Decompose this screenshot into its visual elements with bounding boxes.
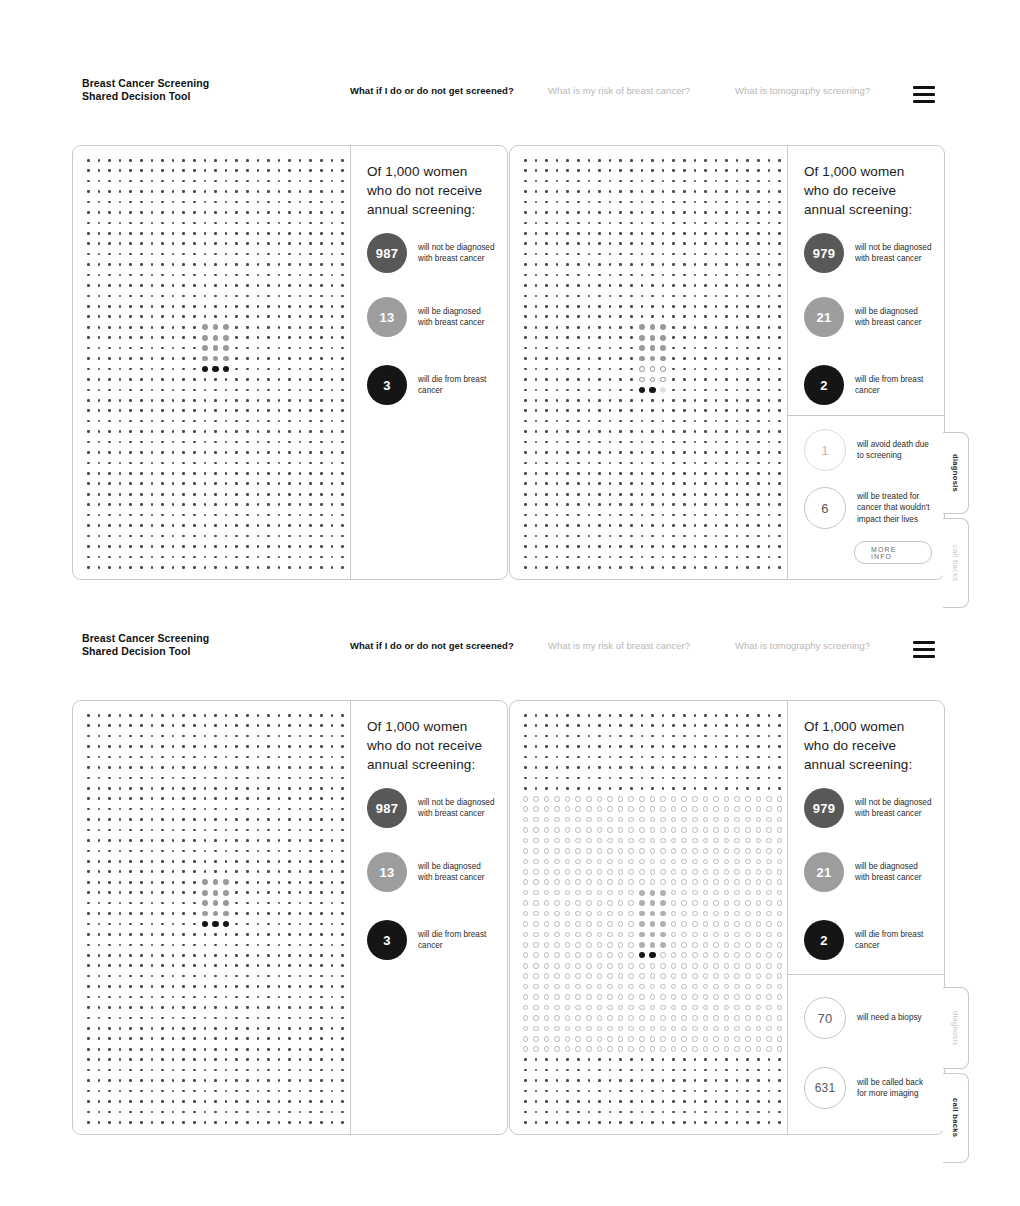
person-dot	[598, 766, 601, 769]
person-dot	[119, 222, 122, 225]
icon-array-cell	[200, 186, 211, 196]
icon-array-cell	[626, 1013, 637, 1023]
icon-array-cell	[157, 961, 168, 971]
icon-array-cell	[594, 877, 605, 887]
icon-array-row	[520, 343, 787, 353]
icon-array-cell	[552, 228, 563, 238]
nav-item-tomography[interactable]: What is tomography screening?	[735, 640, 870, 651]
icon-array-cell	[700, 447, 711, 457]
person-dot	[618, 827, 624, 833]
more-info-button[interactable]: MORE INFO	[854, 541, 932, 564]
icon-array-row	[520, 520, 787, 530]
nav-item-risk[interactable]: What is my risk of breast cancer?	[548, 640, 690, 651]
person-dot	[235, 766, 238, 769]
person-dot	[757, 430, 760, 433]
icon-array-cell	[584, 919, 595, 929]
person-dot	[545, 766, 548, 769]
person-dot	[119, 975, 122, 978]
person-dot	[660, 911, 666, 917]
icon-array-cell	[136, 1096, 147, 1106]
vertical-tab-diagnosis[interactable]: diagnosis	[943, 987, 969, 1069]
nav-item-screened[interactable]: What if I do or do not get screened?	[350, 640, 514, 651]
hamburger-menu-icon[interactable]	[913, 86, 935, 103]
icon-array-cell	[690, 291, 701, 301]
person-dot	[713, 911, 719, 917]
person-dot	[320, 274, 323, 277]
icon-array-cell	[83, 176, 94, 186]
icon-array-cell	[615, 301, 626, 311]
nav-item-screened[interactable]: What if I do or do not get screened?	[350, 85, 514, 96]
person-dot	[639, 848, 645, 854]
icon-array-cell	[200, 1023, 211, 1033]
person-dot	[267, 996, 270, 999]
hamburger-menu-icon[interactable]	[913, 641, 935, 658]
person-dot	[341, 964, 344, 967]
icon-array-cell	[147, 479, 158, 489]
icon-array-cell	[605, 259, 616, 269]
person-dot	[630, 1100, 633, 1103]
icon-array-cell	[94, 416, 105, 426]
person-dot	[778, 336, 781, 339]
person-dot	[598, 1100, 601, 1103]
icon-array-cell	[679, 489, 690, 499]
person-dot	[524, 253, 527, 256]
icon-array-cell	[573, 510, 584, 520]
nav-item-risk[interactable]: What is my risk of breast cancer?	[548, 85, 690, 96]
icon-array-cell	[210, 447, 221, 457]
icon-array-cell	[200, 364, 211, 374]
icon-array-cell	[337, 783, 348, 793]
person-dot	[650, 869, 656, 875]
person-dot	[278, 472, 281, 475]
stat-list: 987 will not be diagnosed with breast ca…	[367, 233, 495, 405]
icon-array-cell	[253, 1065, 264, 1075]
icon-array-cell	[541, 406, 552, 416]
icon-array-cell	[562, 887, 573, 897]
person-dot	[320, 1017, 323, 1020]
icon-array-cell	[626, 981, 637, 991]
icon-array-cell	[742, 1065, 753, 1075]
person-dot	[225, 850, 228, 853]
person-dot	[523, 973, 529, 979]
person-dot	[161, 808, 164, 811]
person-dot	[651, 451, 654, 454]
icon-array-cell	[594, 887, 605, 897]
icon-array-cell	[742, 940, 753, 950]
person-dot	[119, 399, 122, 402]
icon-array-cell	[231, 720, 242, 730]
person-dot	[766, 848, 772, 854]
icon-array-cell	[605, 898, 616, 908]
person-dot	[609, 169, 612, 172]
person-dot	[630, 420, 633, 423]
icon-array-cell	[721, 374, 732, 384]
vertical-tab-diagnosis[interactable]: diagnosis	[943, 432, 969, 514]
person-dot	[246, 745, 249, 748]
icon-array-cell	[189, 312, 200, 322]
nav-item-tomography[interactable]: What is tomography screening?	[735, 85, 870, 96]
person-dot	[204, 1069, 207, 1072]
person-dot	[214, 232, 217, 235]
vertical-tab-call-backs[interactable]: call backs	[943, 1073, 969, 1163]
icon-array-row	[83, 499, 350, 509]
icon-array-cell	[147, 468, 158, 478]
person-dot	[267, 923, 270, 926]
panel-screened-sidebar: Of 1,000 women who do receive annual scr…	[788, 146, 944, 579]
person-dot	[694, 409, 697, 412]
icon-array-cell	[115, 447, 126, 457]
person-dot	[140, 1027, 143, 1030]
person-dot	[320, 222, 323, 225]
icon-array-cell	[316, 1096, 327, 1106]
icon-array-cell	[221, 197, 232, 207]
icon-array-cell	[679, 406, 690, 416]
icon-array-cell	[637, 155, 648, 165]
icon-array-cell	[189, 992, 200, 1002]
person-dot	[161, 462, 164, 465]
icon-array-cell	[253, 186, 264, 196]
person-dot	[704, 232, 707, 235]
icon-array-cell	[189, 825, 200, 835]
icon-array-cell	[274, 239, 285, 249]
vertical-tab-call-backs[interactable]: call backs	[943, 518, 969, 608]
icon-array-cell	[711, 1086, 722, 1096]
icon-array-cell	[125, 353, 136, 363]
person-dot	[734, 806, 740, 812]
icon-array-cell	[626, 416, 637, 426]
